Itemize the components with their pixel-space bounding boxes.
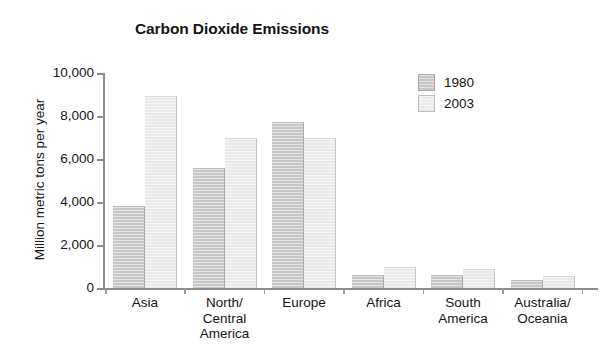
y-axis-tick-label: 0	[86, 281, 94, 295]
chart-legend: 19802003	[418, 72, 474, 114]
y-axis-tick-mark	[97, 116, 104, 118]
bar	[113, 206, 145, 288]
bar	[463, 269, 495, 288]
category-label-line: Central	[170, 311, 280, 327]
x-axis-tick-mark	[343, 288, 345, 294]
x-axis-tick-mark	[105, 288, 107, 294]
legend-swatch	[418, 95, 435, 112]
y-axis-tick-mark	[97, 159, 104, 161]
bar	[145, 96, 177, 288]
legend-label: 1980	[444, 75, 474, 90]
chart-title: Carbon Dioxide Emissions	[112, 20, 352, 38]
bar	[193, 168, 225, 288]
bar	[543, 276, 575, 288]
y-axis-tick-mark	[97, 202, 104, 204]
x-axis-tick-mark	[264, 288, 266, 294]
category-label-line: Australia/	[488, 295, 598, 311]
bar	[272, 122, 304, 288]
x-axis-tick-mark	[184, 288, 186, 294]
y-axis-tick-label: 2,000	[60, 238, 94, 252]
legend-item[interactable]: 1980	[418, 72, 474, 93]
y-axis-tick-mark	[97, 73, 104, 75]
y-axis-label: Million metric tons per year	[32, 55, 47, 305]
bar	[384, 267, 416, 289]
y-axis-line	[103, 73, 105, 289]
y-axis-tick-mark	[97, 245, 104, 247]
x-axis-tick-mark	[423, 288, 425, 294]
x-axis-tick-mark	[502, 288, 504, 294]
bar-chart: Carbon Dioxide Emissions Million metric …	[0, 0, 611, 359]
bar	[431, 275, 463, 288]
category-label-line: America	[170, 326, 280, 342]
bar	[352, 275, 384, 288]
legend-label: 2003	[444, 96, 474, 111]
x-axis-line	[103, 288, 598, 290]
legend-item[interactable]: 2003	[418, 93, 474, 114]
x-axis-category-label: Australia/Oceania	[488, 295, 598, 326]
y-axis-tick-label: 6,000	[60, 152, 94, 166]
y-axis-tick-mark	[97, 288, 104, 290]
y-axis-tick-label: 4,000	[60, 195, 94, 209]
plot-area: 10,0008,0006,0004,0002,0000 AsiaNorth/Ce…	[103, 73, 598, 288]
y-axis-tick-label: 10,000	[53, 66, 94, 80]
bar	[304, 138, 336, 289]
bar	[225, 138, 257, 289]
x-axis-tick-mark	[582, 288, 584, 294]
category-label-line: Oceania	[488, 311, 598, 327]
y-axis-tick-label: 8,000	[60, 109, 94, 123]
legend-swatch	[418, 74, 435, 91]
bar	[511, 280, 543, 288]
